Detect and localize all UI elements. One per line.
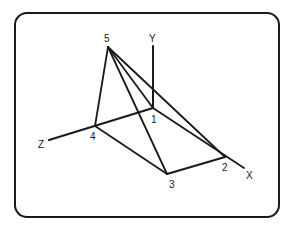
- vertex-label-3: 3: [169, 179, 175, 190]
- x-axis-label: X: [246, 170, 253, 181]
- z-axis-label: Z: [38, 139, 44, 150]
- vertex-label-5: 5: [104, 33, 110, 44]
- wireframe-diagram: Y X Z 1 2 3 4 5: [0, 0, 295, 229]
- y-axis-label: Y: [149, 33, 156, 44]
- x-axis: [153, 108, 244, 168]
- edge-5-2: [108, 47, 225, 157]
- edge-2-3: [167, 157, 225, 174]
- edge-5-1: [108, 47, 153, 108]
- vertex-label-2: 2: [222, 162, 228, 173]
- vertex-label-1: 1: [151, 114, 157, 125]
- z-axis: [49, 108, 153, 140]
- edge-5-4: [95, 47, 108, 126]
- vertex-label-4: 4: [90, 131, 96, 142]
